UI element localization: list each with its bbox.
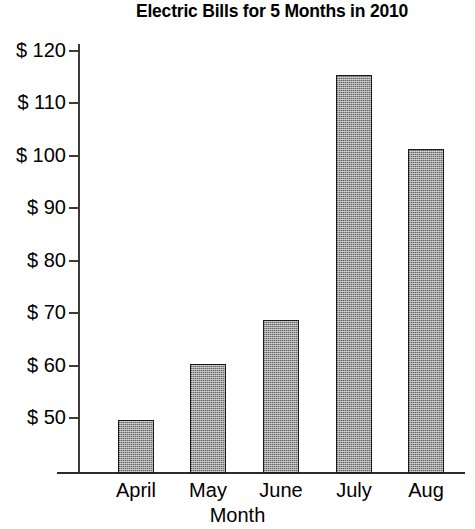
y-axis-tick-mark: [69, 312, 79, 314]
y-axis-tick-mark: [69, 155, 79, 157]
x-axis-title: Month: [0, 504, 475, 526]
bar-aug: [408, 149, 444, 473]
y-axis-tick-mark: [69, 417, 79, 419]
y-axis-tick-mark: [69, 207, 79, 209]
y-axis-tick-label-text: $ 100: [0, 145, 66, 165]
x-axis-label-aug: Aug: [376, 479, 475, 501]
y-axis-tick-mark: [69, 365, 79, 367]
y-axis-tick-label-text: $ 60: [0, 355, 66, 375]
plot-area: $ 120$ 110$ 100$ 90$ 80$ 70$ 60$ 50 Apri…: [0, 0, 475, 529]
y-axis-tick-mark: [69, 50, 79, 52]
bar-chart: Electric Bills for 5 Months in 2010 $ 12…: [0, 0, 475, 529]
y-axis-tick-label-text: $ 120: [0, 40, 66, 60]
y-axis-tick-label-text: $ 70: [0, 302, 66, 322]
y-axis-tick-mark: [69, 260, 79, 262]
bar-april: [118, 420, 154, 473]
y-axis-tick-label-text: $ 80: [0, 250, 66, 270]
y-axis-tick-label-text: $ 90: [0, 197, 66, 217]
y-axis-tick-mark: [69, 102, 79, 104]
bar-may: [190, 364, 226, 473]
bar-july: [336, 75, 372, 473]
bar-june: [263, 320, 299, 473]
y-axis-tick-label-text: $ 110: [0, 92, 66, 112]
y-axis-tick-label-text: $ 50: [0, 407, 66, 427]
